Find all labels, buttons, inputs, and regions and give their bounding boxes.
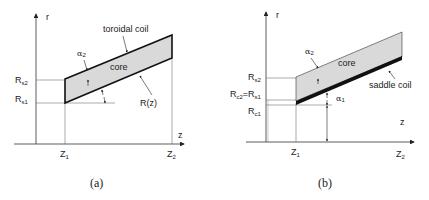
coil-pointer-arrow — [389, 71, 395, 79]
rs2-label: Rs2 — [15, 75, 29, 86]
rc2-eq-rs1-label: Rc2=Rs1 — [230, 89, 262, 100]
r-axis-label: r — [276, 10, 279, 20]
caption-b: (b) — [318, 176, 332, 190]
rs1-label: Rs1 — [15, 94, 29, 105]
panel-b: r z core saddle coil α2 α1 Rs2 Rc2=Rs1 R… — [230, 10, 414, 190]
z1-label: Z1 — [60, 149, 70, 160]
panel-a: r z core toroidal coil R(z) α2 Rs2 Rs1 Z… — [14, 12, 184, 190]
alpha2-arrow-top — [311, 58, 318, 68]
r-axis-label: r — [46, 12, 49, 22]
alpha2-label: α2 — [77, 49, 86, 58]
alpha2-arrow-top — [84, 60, 87, 70]
rz-label: R(z) — [140, 98, 157, 108]
z-axis-label: z — [400, 117, 405, 127]
rc1-label: Rc1 — [248, 106, 262, 117]
rs2-label: Rs2 — [248, 72, 262, 83]
rz-pointer-arrow — [140, 76, 152, 95]
saddle-coil-label: saddle coil — [369, 80, 412, 90]
alpha1-label: α1 — [336, 94, 345, 103]
core-label: core — [338, 58, 356, 68]
z2-label: Z2 — [167, 149, 177, 160]
coil-pointer-arrow — [123, 36, 127, 52]
z-axis-label: z — [178, 130, 183, 140]
z1-label: Z1 — [291, 147, 301, 158]
rz-thickness-arrow-bottom — [104, 97, 105, 103]
core-label: core — [110, 62, 128, 72]
rz-thickness-arrow-top — [102, 90, 103, 95]
toroidal-coil-label: toroidal coil — [103, 24, 149, 34]
coil-geometry-diagram: r z core toroidal coil R(z) α2 Rs2 Rs1 Z… — [0, 0, 429, 200]
alpha2-label: α2 — [305, 47, 314, 56]
z2-label: Z2 — [396, 149, 406, 160]
caption-a: (a) — [90, 176, 103, 190]
